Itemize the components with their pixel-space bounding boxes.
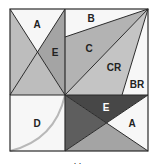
diagram-caption: . . — [0, 156, 155, 166]
quilt-block-diagram: A E B C CR BR D E A — [0, 0, 155, 166]
label-a-top-left: A — [33, 19, 40, 30]
label-d: D — [33, 118, 40, 129]
label-cr: CR — [107, 62, 122, 73]
label-e-bottom-right: E — [103, 102, 110, 113]
label-br: BR — [130, 79, 145, 90]
label-c: C — [85, 43, 92, 54]
label-e-top-left: E — [52, 47, 59, 58]
label-b: B — [87, 13, 94, 24]
label-a-bottom-right: A — [128, 118, 135, 129]
